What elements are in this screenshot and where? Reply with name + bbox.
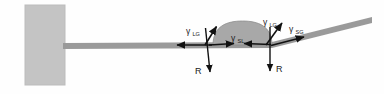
label-gamma-lg-left-subscript: LG <box>193 31 200 37</box>
figure-canvas: γ LG γ LG γ SL γ SG R R <box>0 0 384 94</box>
label-gamma-sl-subscript: SL <box>238 38 245 44</box>
label-reaction-left: R <box>195 66 202 76</box>
label-gamma-lg-right-subscript: LG <box>270 22 277 28</box>
label-gamma-sg-subscript: SG <box>296 29 304 35</box>
force-diagram-figure: γ LG γ LG γ SL γ SG R R <box>0 0 384 94</box>
fixed-support-wall <box>25 5 65 85</box>
arrow-gamma-sl-right <box>244 44 271 45</box>
label-reaction-right: R <box>276 64 283 74</box>
